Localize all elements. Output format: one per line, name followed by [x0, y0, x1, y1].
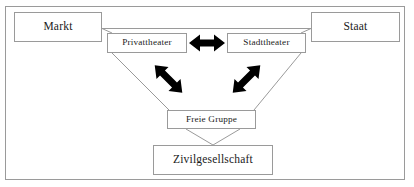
line-freie-gruppe-zivilgesellschaft-left: [186, 129, 213, 145]
node-staat[interactable]: Staat: [311, 12, 400, 42]
node-freie-gruppe-label: Freie Gruppe: [186, 115, 237, 124]
node-staat-label: Staat: [344, 21, 368, 33]
node-privattheater[interactable]: Privattheater: [107, 33, 187, 53]
line-freie-gruppe-zivilgesellschaft-right: [213, 129, 240, 145]
node-freie-gruppe[interactable]: Freie Gruppe: [167, 110, 256, 129]
line-privattheater-freie-gruppe: [112, 53, 169, 110]
node-markt[interactable]: Markt: [14, 12, 102, 42]
node-stadttheater-label: Stadttheater: [243, 38, 289, 47]
arrow-stadttheater-freie-gruppe: [227, 59, 267, 99]
arrow-privattheater-stadttheater: [189, 35, 225, 52]
node-stadttheater[interactable]: Stadttheater: [227, 33, 306, 53]
line-stadttheater-freie-gruppe: [254, 53, 301, 110]
node-zivilgesellschaft[interactable]: Zivilgesellschaft: [153, 145, 273, 175]
node-privattheater-label: Privattheater: [122, 38, 172, 47]
node-markt-label: Markt: [43, 21, 72, 33]
arrow-privattheater-freie-gruppe: [149, 59, 189, 99]
node-zivilgesellschaft-label: Zivilgesellschaft: [173, 154, 253, 166]
diagram-canvas: Markt Staat Privattheater Stadttheater F…: [0, 0, 414, 187]
